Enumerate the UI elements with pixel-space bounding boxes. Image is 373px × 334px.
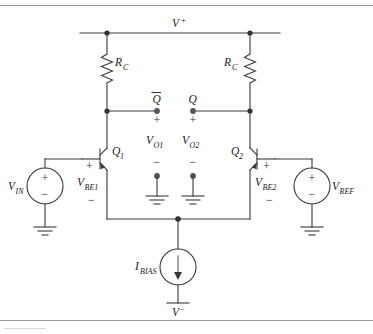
transistor-q2: Q 2 + V BE2 −	[231, 111, 276, 219]
vref-subscript: REF	[339, 187, 355, 196]
gnd-vref	[301, 227, 323, 235]
q1-vbe-minus: −	[88, 193, 95, 207]
vo1-subscript: O1	[154, 141, 164, 150]
vref-plus-sign: +	[309, 171, 316, 185]
q-node-label: Q	[189, 93, 198, 105]
figure-container: V + R C R C Q	[0, 0, 373, 334]
vo1-plus-sign: +	[154, 113, 161, 127]
vref-minus-sign: −	[309, 187, 316, 201]
vo2-minus-sign: −	[190, 155, 197, 169]
rc-left-label: R	[114, 56, 122, 68]
ibias-subscript: BIAS	[140, 267, 156, 276]
v-minus-rail: V −	[167, 303, 189, 318]
q1-vbe-subscript: BE1	[85, 183, 99, 192]
v-plus-rail: V +	[80, 15, 280, 36]
transistor-q1: Q 1 + V BE1 −	[77, 111, 124, 219]
qbar-node-label: Q	[153, 93, 162, 105]
v-plus-label: V	[172, 17, 181, 29]
vin-plus-sign: +	[42, 171, 49, 185]
gnd-vo1	[146, 196, 168, 204]
q2-subscript: 2	[239, 152, 243, 161]
vin-minus-sign: −	[42, 187, 49, 201]
source-vref: + − V REF	[275, 159, 354, 235]
q1-subscript: 1	[120, 152, 124, 161]
circuit-schematic: V + R C R C Q	[0, 0, 373, 334]
vo1-minus-sign: −	[154, 155, 161, 169]
output-node-rail	[104, 108, 252, 113]
q2-vbe-minus: −	[266, 193, 273, 207]
q1-vbe-plus: +	[86, 159, 93, 173]
v-minus-sign: −	[180, 304, 185, 314]
vin-subscript: IN	[15, 187, 25, 196]
resistor-rc-left: R C	[102, 33, 130, 111]
gnd-vin	[34, 227, 56, 235]
v-plus-sign: +	[181, 15, 186, 25]
rc-right-label: R	[223, 56, 231, 68]
resistor-rc-right: R C	[223, 33, 256, 111]
source-vin: + − V IN	[8, 159, 82, 235]
q2-vbe-subscript: BE2	[263, 183, 277, 192]
rc-left-subscript: C	[123, 63, 129, 72]
output-port-q: Q + V O2 −	[182, 93, 204, 204]
vo2-plus-sign: +	[190, 113, 197, 127]
vo2-subscript: O2	[190, 141, 200, 150]
rc-right-subscript: C	[232, 63, 238, 72]
source-ibias: I BIAS	[134, 219, 196, 303]
gnd-vo2	[182, 196, 204, 204]
q2-vbe-plus: +	[263, 159, 270, 173]
output-port-qbar: Q + V O1 −	[146, 93, 168, 205]
